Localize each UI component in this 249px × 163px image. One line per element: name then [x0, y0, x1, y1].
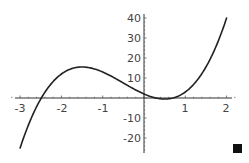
- y-tick-labels: -20 -10 10 20 30 40: [123, 12, 141, 145]
- y-tick-label: 30: [127, 32, 141, 45]
- y-tick-label: 10: [127, 72, 141, 85]
- x-tick-labels: -3 -2 -1 1 2: [15, 102, 230, 115]
- x-tick-label: -2: [57, 102, 68, 115]
- x-tick-label: 1: [182, 102, 189, 115]
- y-axis: [144, 14, 147, 153]
- function-plot: -3 -2 -1 1 2 -20 -10 10 20 30 40: [0, 0, 249, 163]
- x-axis: [12, 96, 235, 99]
- x-tick-label: 2: [223, 102, 230, 115]
- y-tick-label: -10: [123, 112, 141, 125]
- function-curve: [20, 18, 227, 148]
- x-tick-label: -3: [15, 102, 26, 115]
- y-tick-label: 40: [127, 12, 141, 25]
- x-tick-label: -1: [98, 102, 109, 115]
- end-marker-square: [233, 144, 242, 153]
- y-tick-label: 20: [127, 52, 141, 65]
- y-tick-label: -20: [123, 132, 141, 145]
